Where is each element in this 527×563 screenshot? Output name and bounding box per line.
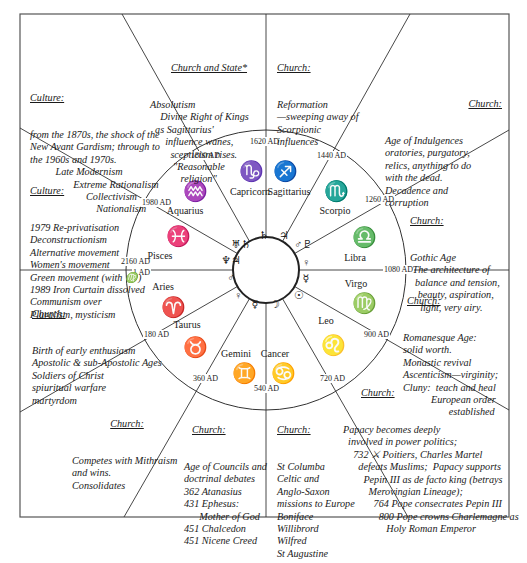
libra-icon: ♎ [349,226,379,248]
sign-label-aquarius: Aquarius [155,205,215,216]
planet-icon: ☿ [294,272,318,284]
sign-label-virgo: Virgo [326,278,386,289]
date-label: 900 AD [363,330,390,339]
panel-heading: Church: [72,418,182,430]
sign-label-sagittarius: Sagittarius [259,186,319,197]
panel-heading: Church: [400,215,500,227]
panel-body: Age of Councils and doctrinal debates 36… [184,461,267,548]
panel-body: Reformation —sweeping away of Scorpionic… [277,99,359,149]
panel-mithraism: Church: Competes with Mithraism and wins… [72,393,182,505]
planet-icon: ☉ [287,289,311,301]
panel-papacy: Church: Papacy becomes deeply involved i… [343,362,519,548]
planet-icon: ♆♃ [219,254,243,266]
planet-icon: ♅♄ [229,238,253,250]
panel-councils: Church: Age of Councils and doctrinal de… [184,399,267,560]
panel-heading: Culture: [30,92,160,104]
planet-icon: ♂♇ [291,238,315,250]
sign-label-taurus: Taurus [157,319,217,330]
panel-church-and-state: Church and State* Absolutism Divine Righ… [150,37,268,198]
sagittarius-icon: ♐ [270,160,300,182]
panel-heading: Church: [343,387,519,399]
panel-body: Papacy becomes deeply involved in power … [343,424,519,536]
panel-body: Competes with Mithraism and wins. Consol… [72,455,182,492]
panel-heading: Church: [32,308,162,320]
sign-label-scorpio: Scorpio [305,205,365,216]
aries-icon: ♈ [158,296,188,318]
date-label: 540 AD [253,384,280,393]
panel-heading: Church: [184,424,267,436]
planet-icon: ♂ [219,271,243,283]
sign-label-cancer: Cancer [245,348,305,359]
panel-body: Absolutism Divine Right of Kings as Sagi… [150,99,268,186]
panel-reformation: Church: Reformation —sweeping away of Sc… [277,37,359,161]
panel-heading: Church: [385,98,502,110]
panel-heading: Church and State* [150,62,268,74]
leo-icon: ♌ [318,334,348,356]
pisces-icon: ♓ [163,225,193,247]
virgo-icon: ♍ [349,292,379,314]
scorpio-icon: ♏ [321,180,351,202]
panel-heading: Culture: [30,185,145,197]
planet-icon: ☽ [263,298,287,310]
date-label: 360 AD [192,374,219,383]
panel-heading: Church: [277,62,359,74]
cancer-icon: ♋ [268,362,298,384]
gemini-icon: ♊ [229,362,259,384]
panel-heading: Church: [395,295,498,307]
planet-icon: ♀ [294,256,318,268]
sign-label-leo: Leo [296,315,356,326]
sign-label-libra: Libra [325,252,385,263]
